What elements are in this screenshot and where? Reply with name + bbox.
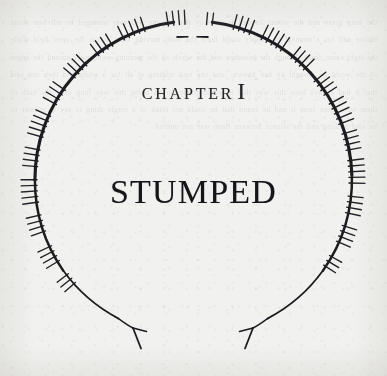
chapter-word: Chapter (142, 79, 235, 104)
ogham-tick-marks (21, 10, 365, 291)
chapter-numeral: I (237, 78, 245, 104)
chapter-label: ChapterI (0, 76, 387, 107)
chapter-title: Stumped (0, 158, 387, 216)
chapter-opening-page: the long grass and the stones beyond it … (0, 0, 387, 376)
ring-terminal-right (240, 328, 254, 349)
top-gap-dashes (177, 36, 209, 37)
ring-terminal-left (133, 328, 147, 349)
